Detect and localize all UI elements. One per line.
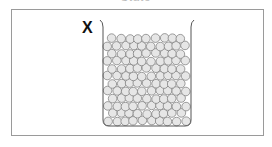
particle	[121, 117, 130, 126]
particle	[168, 65, 177, 74]
particle	[134, 35, 143, 44]
particle	[113, 102, 122, 111]
particle	[156, 42, 165, 51]
particle	[147, 57, 156, 66]
particle	[152, 79, 161, 88]
particle	[167, 94, 176, 103]
particle	[108, 94, 117, 103]
particle	[103, 42, 112, 51]
particle	[107, 34, 116, 43]
particle	[129, 87, 138, 96]
particle	[182, 87, 191, 96]
particle	[129, 72, 138, 81]
particle	[177, 79, 186, 88]
particle	[117, 65, 126, 74]
particle	[137, 72, 146, 81]
particle	[108, 65, 117, 74]
particle	[146, 42, 155, 51]
particle	[167, 80, 176, 89]
beaker-diagram	[0, 0, 272, 147]
particle	[172, 117, 181, 126]
particle	[176, 50, 185, 59]
particle	[172, 102, 181, 111]
particle	[143, 110, 152, 119]
particle	[151, 34, 160, 43]
particle	[138, 87, 147, 96]
particle	[168, 34, 177, 43]
particle	[182, 102, 191, 111]
particle	[176, 34, 185, 43]
particle	[152, 95, 161, 104]
particle	[108, 80, 117, 89]
particle	[156, 57, 165, 66]
particle	[117, 34, 126, 43]
particle	[160, 34, 169, 43]
particle	[163, 117, 172, 126]
particle	[137, 57, 146, 66]
particle	[133, 49, 142, 58]
particle	[160, 95, 169, 104]
particle	[147, 72, 156, 81]
particles	[103, 34, 191, 126]
particle	[117, 50, 126, 59]
particle	[176, 65, 185, 74]
particle	[143, 94, 152, 103]
particle	[142, 34, 151, 43]
particle	[129, 102, 138, 111]
particle	[117, 79, 126, 88]
particle	[113, 117, 122, 126]
